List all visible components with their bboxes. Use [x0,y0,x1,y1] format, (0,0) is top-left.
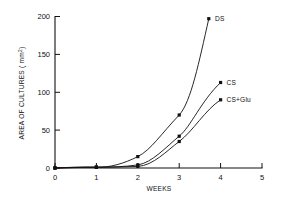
x-axis-tick-labels: 0 1 2 3 4 5 [53,173,264,182]
x-tick-label-1: 1 [94,173,98,182]
y-tick-label-150: 150 [37,50,50,59]
series-label-cs: CS [227,79,237,86]
series-ds: DS [53,15,225,169]
chart-figure: 0 50 100 150 200 0 1 2 3 4 5 WEEKS A [0,0,288,197]
y-axis-title-main: AREA OF CULTURES ( mm [18,52,26,140]
y-axis-title: AREA OF CULTURES ( mm2) [18,47,26,140]
series-cs-glu-marker-w4 [219,98,222,101]
series-cs-marker-w3 [178,135,181,138]
series-ds-marker-w3 [178,113,181,116]
series-label-cs-glu: CS+Glu [227,96,252,103]
x-tick-label-3: 3 [177,173,181,182]
series-cs-marker-w4 [219,81,222,84]
y-axis-tick-labels: 0 50 100 150 200 [37,12,50,173]
series-cs: CS [53,79,236,170]
y-tick-label-100: 100 [37,88,50,97]
series-ds-curve [55,19,209,168]
series-cs-glu-marker-w0 [53,166,56,169]
x-tick-label-2: 2 [136,173,140,182]
x-tick-label-5: 5 [260,173,264,182]
x-tick-label-0: 0 [53,173,57,182]
series-ds-marker-w4 [207,17,210,20]
y-axis-ticks [55,17,60,169]
y-tick-label-200: 200 [37,12,50,21]
series-label-ds: DS [215,15,225,22]
series-ds-marker-w2 [136,155,139,158]
x-tick-label-4: 4 [219,173,223,182]
series-cs-glu-marker-w3 [178,140,181,143]
series-cs-glu-marker-w1 [95,166,98,169]
series-cs-glu-marker-w2 [136,165,139,168]
axes [55,17,262,169]
svg-text:AREA OF CULTURES ( mm2): AREA OF CULTURES ( mm2) [18,47,26,140]
chart-svg: 0 50 100 150 200 0 1 2 3 4 5 WEEKS A [0,0,288,197]
y-axis-title-suffix: ) [18,47,26,49]
x-axis-title: WEEKS [146,185,171,192]
y-tick-label-50: 50 [42,126,50,135]
y-tick-label-0: 0 [46,164,50,173]
